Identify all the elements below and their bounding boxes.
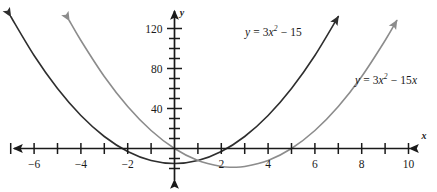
x-tick-label: −4 xyxy=(75,158,87,170)
x-tick-label: 4 xyxy=(265,158,271,170)
y-tick-label: 120 xyxy=(145,23,163,35)
y-tick-label: 80 xyxy=(151,63,163,75)
axes-group xyxy=(11,11,410,180)
x-tick-label: 2 xyxy=(218,158,224,170)
parabola-plot: −6−4−2246810 4080120 x y xyxy=(0,0,437,192)
curve-1-annotation: y = 3x2 − 15 xyxy=(245,24,302,38)
x-tick-label: 10 xyxy=(403,158,415,170)
x-tick-label: 6 xyxy=(312,158,318,170)
y-tick-label: 40 xyxy=(151,103,163,115)
x-tick-label: −2 xyxy=(122,158,134,170)
curve-2-annotation: y = 3x2 − 15x xyxy=(355,72,417,86)
x-tick-label: 8 xyxy=(359,158,365,170)
figure-canvas: −6−4−2246810 4080120 x y y = 3x2 − 15 y … xyxy=(0,0,437,192)
x-axis-title: x xyxy=(421,130,427,141)
y-axis-tick-labels: 4080120 xyxy=(145,23,163,115)
y-axis-title: y xyxy=(179,7,185,18)
x-tick-label: −6 xyxy=(28,158,40,170)
x-axis-tick-labels: −6−4−2246810 xyxy=(28,158,415,170)
